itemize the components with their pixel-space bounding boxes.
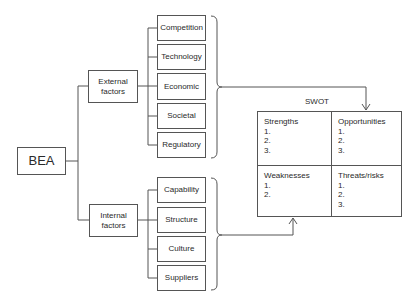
quadrant-item: 1. [338, 181, 401, 191]
quadrant-heading: Strengths [264, 117, 331, 127]
factor-label: Technology [161, 52, 201, 62]
quadrant-item: 3. [338, 146, 401, 156]
quadrant-item: 3. [264, 146, 331, 156]
quadrant-heading: Threats/risks [338, 171, 401, 181]
factor-competition: Competition [157, 15, 206, 41]
factor-label: Economic [164, 82, 199, 92]
swot-threats: Threats/risks 1. 2. 3. [331, 165, 401, 216]
factor-societal: Societal [157, 103, 206, 129]
swot-weaknesses: Weaknesses 1. 2. [258, 165, 331, 216]
internal-label-1: Internal [100, 211, 127, 221]
swot-grid: Strengths 1. 2. 3. Opportunities 1. 2. 3… [257, 111, 402, 217]
factor-capability: Capability [157, 177, 206, 203]
factor-culture: Culture [157, 236, 206, 262]
swot-strengths: Strengths 1. 2. 3. [258, 112, 331, 165]
factor-label: Competition [160, 23, 203, 33]
factor-label: Societal [167, 111, 195, 121]
factor-label: Structure [165, 215, 197, 225]
internal-factors-box: Internal factors [89, 204, 138, 237]
factor-suppliers: Suppliers [157, 265, 206, 291]
factor-technology: Technology [157, 44, 206, 70]
external-label-2: factors [101, 87, 125, 97]
bea-label: BEA [28, 156, 54, 166]
quadrant-item: 2. [264, 190, 331, 200]
factor-label: Culture [169, 244, 195, 254]
internal-label-2: factors [101, 221, 125, 231]
external-factors-box: External factors [88, 70, 138, 103]
factor-label: Suppliers [165, 273, 198, 283]
quadrant-item: 1. [264, 127, 331, 137]
factor-economic: Economic [157, 73, 206, 100]
quadrant-item: 1. [264, 181, 331, 191]
swot-title: SWOT [305, 97, 329, 106]
quadrant-item: 1. [338, 127, 401, 137]
factor-label: Regulatory [162, 140, 201, 150]
swot-opportunities: Opportunities 1. 2. 3. [331, 112, 401, 165]
quadrant-item: 2. [338, 136, 401, 146]
quadrant-item: 3. [338, 200, 401, 210]
quadrant-item: 2. [338, 190, 401, 200]
factor-structure: Structure [157, 207, 206, 233]
factor-regulatory: Regulatory [157, 132, 206, 158]
bea-root-box: BEA [17, 147, 66, 175]
quadrant-item: 2. [264, 136, 331, 146]
quadrant-heading: Opportunities [338, 117, 401, 127]
external-label-1: External [98, 77, 127, 87]
quadrant-heading: Weaknesses [264, 171, 331, 181]
factor-label: Capability [164, 185, 199, 195]
